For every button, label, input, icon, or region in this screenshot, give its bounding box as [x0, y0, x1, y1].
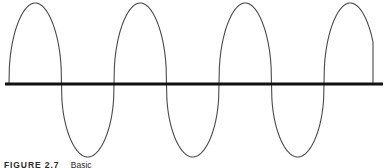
waveform-svg	[0, 0, 387, 160]
figure-container: FIGURE 2.7 Basic	[0, 0, 387, 168]
figure-caption-label: FIGURE 2.7	[4, 160, 59, 168]
clipped-sine-curve	[9, 3, 373, 157]
figure-caption: FIGURE 2.7 Basic	[4, 160, 384, 168]
waveform-curve-group	[9, 3, 373, 157]
figure-caption-text: Basic	[71, 160, 92, 168]
waveform-plot-area	[0, 0, 387, 160]
